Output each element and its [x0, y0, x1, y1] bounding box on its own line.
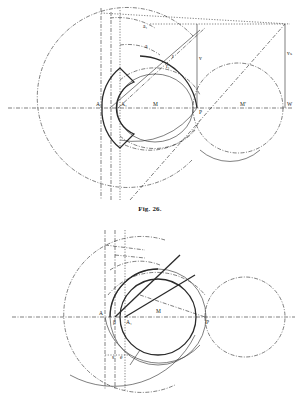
figure-26-diagram: A A₁ M M' W P v vₛ a a₁ r r₁: [0, 0, 300, 205]
right-circle-arc: [200, 150, 260, 161]
right-circle-arc: [205, 317, 285, 357]
label-W: W: [287, 101, 293, 107]
label-A: A: [96, 101, 100, 107]
outer-circle-arc: [64, 236, 175, 392]
label-P: P: [199, 109, 202, 115]
tooth-edge: [130, 350, 140, 365]
construction-line: [130, 24, 285, 200]
label-M: M: [153, 101, 158, 107]
figure-27-diagram: A β A₁ M P s e: [0, 225, 300, 414]
angle-arc: [120, 44, 160, 55]
right-circle-arc: [205, 277, 285, 317]
construction-line: [115, 255, 145, 258]
label-v: v: [199, 55, 202, 61]
label-r1: r₁: [166, 63, 170, 69]
label-beta: β: [113, 319, 116, 325]
label-P: P: [206, 319, 209, 325]
label-A1: A₁: [121, 101, 127, 107]
label-M: M: [156, 308, 161, 314]
label-a1: a₁: [143, 23, 147, 29]
label-vs: vₛ: [287, 50, 292, 56]
figure-caption: Fig. 26.: [0, 205, 300, 213]
label-A: A: [99, 310, 103, 316]
tooth-flank: [115, 255, 180, 317]
construction-line: [140, 295, 205, 317]
angle-arc: [110, 18, 155, 28]
label-A1: A₁: [126, 319, 132, 325]
label-e: e: [120, 354, 123, 360]
outer-circle-arc: [37, 7, 193, 187]
ring-arc: [125, 120, 200, 150]
construction-line: [110, 30, 200, 108]
label-M-prime: M': [240, 101, 246, 107]
label-s: s: [112, 354, 114, 360]
label-r: r: [172, 53, 174, 59]
construction-line: [118, 28, 205, 108]
